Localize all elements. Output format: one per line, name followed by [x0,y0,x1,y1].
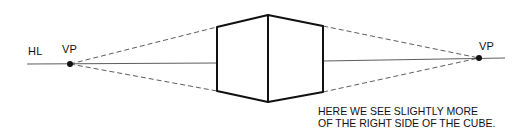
right-vp-label: VP [479,40,494,52]
right-vp-lower-construction-line [323,58,479,92]
cube-right-face [268,15,323,102]
cube-left-face [217,15,268,102]
caption-line-1: HERE WE SEE SLIGHTLY MORE [318,105,495,117]
left-vp-label: VP [62,43,77,55]
left-vanishing-point-dot [67,61,73,67]
right-vanishing-point-dot [476,55,482,61]
left-vp-lower-construction-line [70,64,217,91]
caption: HERE WE SEE SLIGHTLY MORE OF THE RIGHT S… [318,105,495,129]
left-vp-upper-construction-line [70,27,217,64]
horizon-line-label: HL [28,45,42,57]
right-vp-upper-construction-line [323,26,479,58]
horizon-line [27,63,217,64]
caption-line-2: OF THE RIGHT SIDE OF THE CUBE. [318,117,495,129]
